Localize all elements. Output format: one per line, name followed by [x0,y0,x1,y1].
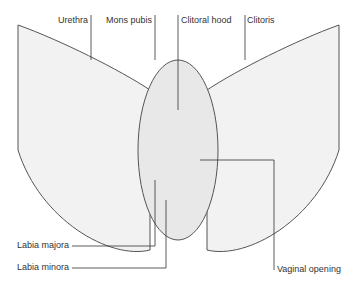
label-labia-majora: Labia majora [17,240,69,250]
label-clitoris: Clitoris [247,15,275,25]
label-labia-minora: Labia minora [17,262,69,272]
label-vaginal-opening: Vaginal opening [277,264,341,274]
label-clitoral-hood: Clitoral hood [181,15,232,25]
label-mons-pubis: Mons pubis [106,15,152,25]
body-outline [18,25,339,252]
label-urethra: Urethra [58,15,88,25]
